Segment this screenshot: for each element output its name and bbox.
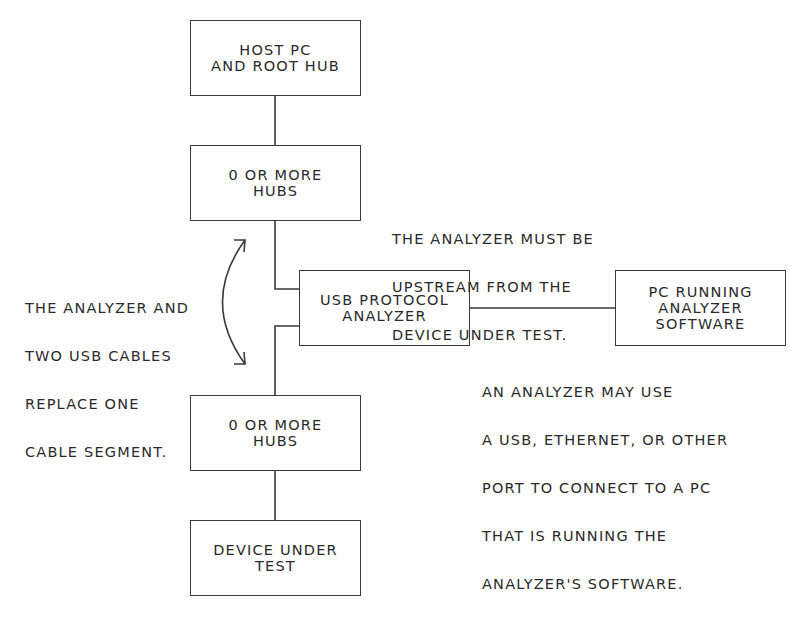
note-line: THE ANALYZER AND: [25, 300, 189, 316]
note-upstream: THE ANALYZER MUST BE UPSTREAM FROM THE D…: [392, 199, 594, 359]
note-line: THE ANALYZER MUST BE: [392, 231, 594, 247]
node-label: DEVICE UNDER: [213, 542, 338, 558]
note-line: AN ANALYZER MAY USE: [482, 384, 728, 400]
note-replace-cable-segment: THE ANALYZER AND TWO USB CABLES REPLACE …: [25, 268, 189, 476]
note-line: ANALYZER'S SOFTWARE.: [482, 576, 728, 592]
node-label: 0 OR MORE: [229, 417, 323, 433]
node-device-under-test: DEVICE UNDER TEST: [190, 520, 361, 596]
note-line: UPSTREAM FROM THE: [392, 279, 594, 295]
edge-analyzer-to-hubs-lower: [275, 326, 299, 395]
node-label: HUBS: [253, 183, 298, 199]
node-label: ANALYZER: [658, 300, 742, 316]
note-analyzer-port: AN ANALYZER MAY USE A USB, ETHERNET, OR …: [482, 352, 728, 608]
note-line: CABLE SEGMENT.: [25, 444, 189, 460]
node-hubs-upper: 0 OR MORE HUBS: [190, 145, 361, 221]
note-line: TWO USB CABLES: [25, 348, 189, 364]
node-label: AND ROOT HUB: [211, 58, 340, 74]
note-line: PORT TO CONNECT TO A PC: [482, 480, 728, 496]
node-label: SOFTWARE: [656, 316, 746, 332]
node-hubs-lower: 0 OR MORE HUBS: [190, 395, 361, 471]
node-pc-running-software: PC RUNNING ANALYZER SOFTWARE: [615, 270, 786, 346]
node-label: HOST PC: [239, 42, 311, 58]
edge-hubs-upper-to-analyzer: [275, 220, 299, 289]
note-line: A USB, ETHERNET, OR OTHER: [482, 432, 728, 448]
note-line: DEVICE UNDER TEST.: [392, 327, 594, 343]
node-host-pc: HOST PC AND ROOT HUB: [190, 20, 361, 96]
node-label: PC RUNNING: [648, 284, 752, 300]
note-line: REPLACE ONE: [25, 396, 189, 412]
node-label: TEST: [255, 558, 296, 574]
node-label: 0 OR MORE: [229, 167, 323, 183]
note-line: THAT IS RUNNING THE: [482, 528, 728, 544]
double-headed-curved-arrow: [223, 240, 246, 364]
node-label: HUBS: [253, 433, 298, 449]
